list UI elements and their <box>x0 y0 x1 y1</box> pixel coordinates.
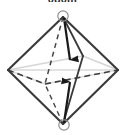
octahedron-diagram-svg <box>0 0 125 135</box>
bottom-to-back-hidden-edge <box>45 84 63 124</box>
pale-edge-group <box>8 56 118 84</box>
bottom-left-outline-edge <box>8 70 63 124</box>
top-right-outline-edge <box>63 17 118 70</box>
octahedron-figure: 080m <box>0 0 125 135</box>
front-to-right-edge <box>83 56 118 70</box>
